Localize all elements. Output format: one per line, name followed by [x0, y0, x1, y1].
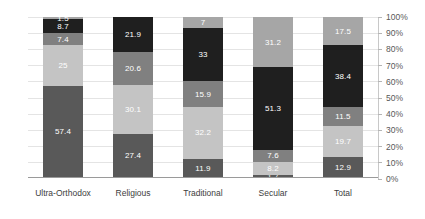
bar-segment-value: 15.9: [195, 90, 211, 99]
y-tick-mark: [378, 130, 382, 131]
stacked-bar: 57.4257.48.71.5: [43, 17, 83, 178]
y-tick-label: 30%: [386, 126, 403, 134]
bar-segment-value: 38.4: [335, 72, 351, 81]
stacked-bar-chart: 57.4257.48.71.527.430.120.621.911.932.21…: [0, 0, 425, 219]
y-tick-label: 40%: [386, 110, 403, 118]
bar-segment[interactable]: 19.7: [323, 126, 363, 158]
y-tick-label: 60%: [386, 78, 403, 86]
bar-segment[interactable]: 7.4: [43, 33, 83, 45]
bar-segment[interactable]: 11.9: [183, 159, 223, 178]
bar-column-total[interactable]: 12.919.711.538.417.5: [310, 17, 377, 178]
y-tick-label: 80%: [386, 45, 403, 53]
bar-segment-value: 7: [201, 18, 206, 27]
bar-segment-value: 12.9: [335, 163, 351, 172]
bar-segment-value: 1.5: [57, 14, 68, 23]
x-axis-label: Religious: [116, 188, 151, 198]
x-axis-label-cell: Traditional: [170, 182, 237, 200]
y-tick-mark: [378, 114, 382, 115]
bar-segment[interactable]: 17.5: [323, 17, 363, 45]
y-tick-label: 90%: [386, 29, 403, 37]
y-tick-mark: [378, 146, 382, 147]
bar-column-traditional[interactable]: 11.932.215.9337: [170, 17, 237, 178]
bar-segment[interactable]: 12.9: [323, 157, 363, 178]
bar-segment[interactable]: 51.3: [253, 67, 293, 150]
y-tick-mark: [378, 17, 382, 18]
bar-segment-value: 11.9: [195, 164, 210, 173]
y-tick-mark: [378, 81, 382, 82]
x-axis: Ultra-OrthodoxReligiousTraditionalSecula…: [28, 182, 378, 200]
bar-segment[interactable]: 32.2: [183, 107, 223, 159]
bar-segment[interactable]: 1.5: [43, 17, 83, 19]
x-axis-label-cell: Secular: [240, 182, 307, 200]
bar-segment-value: 19.7: [335, 137, 351, 146]
y-tick-label: 100%: [386, 13, 408, 21]
y-tick-label: 20%: [386, 143, 403, 151]
y-tick-mark: [378, 98, 382, 99]
bar-segment[interactable]: 30.1: [113, 85, 153, 133]
bar-group: 57.4257.48.71.527.430.120.621.911.932.21…: [28, 17, 378, 178]
plot-area: 57.4257.48.71.527.430.120.621.911.932.21…: [28, 17, 378, 178]
bar-segment[interactable]: 21.9: [113, 17, 153, 52]
axis-baseline: [28, 177, 378, 178]
bar-segment[interactable]: 8.2: [253, 162, 293, 175]
x-axis-label-cell: Ultra-Orthodox: [30, 182, 97, 200]
bar-segment[interactable]: 15.9: [183, 81, 223, 107]
y-tick-mark: [378, 179, 382, 180]
bar-segment[interactable]: 33: [183, 28, 223, 81]
x-axis-label: Total: [334, 188, 352, 198]
bar-segment[interactable]: 7: [183, 17, 223, 28]
bar-segment[interactable]: 38.4: [323, 45, 363, 107]
bar-segment-value: 32.2: [195, 128, 211, 137]
bar-segment[interactable]: 7.6: [253, 150, 293, 162]
bar-segment-value: 31.2: [265, 38, 281, 47]
bar-segment-value: 20.6: [125, 64, 141, 73]
y-tick-mark: [378, 33, 382, 34]
x-axis-label-cell: Religious: [100, 182, 167, 200]
y-tick-label: 10%: [386, 159, 403, 167]
stacked-bar: 11.932.215.9337: [183, 17, 223, 178]
bar-segment[interactable]: 20.6: [113, 52, 153, 85]
y-axis: 0%10%20%30%40%50%60%70%80%90%100%: [378, 17, 425, 179]
bar-column-secular[interactable]: 1.78.27.651.331.2: [240, 17, 307, 178]
stacked-bar: 27.430.120.621.9: [113, 17, 153, 178]
x-axis-label-cell: Total: [310, 182, 377, 200]
bar-column-ultra-orthodox[interactable]: 57.4257.48.71.5: [30, 17, 97, 178]
bar-segment-value: 8.7: [57, 22, 68, 31]
bar-segment-value: 51.3: [265, 104, 281, 113]
stacked-bar: 12.919.711.538.417.5: [323, 17, 363, 178]
bar-segment-value: 17.5: [335, 27, 351, 36]
bar-column-religious[interactable]: 27.430.120.621.9: [100, 17, 167, 178]
y-tick-mark: [378, 162, 382, 163]
bar-segment-value: 57.4: [55, 127, 71, 136]
bar-segment[interactable]: 27.4: [113, 134, 153, 178]
y-tick-label: 50%: [386, 94, 403, 102]
bar-segment-value: 27.4: [125, 151, 141, 160]
bar-segment-value: 7.4: [57, 35, 68, 44]
y-tick-label: 70%: [386, 62, 403, 70]
bar-segment-value: 21.9: [125, 30, 141, 39]
x-axis-label: Ultra-Orthodox: [35, 188, 91, 198]
bar-segment[interactable]: 31.2: [253, 17, 293, 67]
bar-segment-value: 8.2: [267, 164, 278, 173]
y-tick-label: 0%: [386, 175, 398, 183]
bar-segment-value: 7.6: [267, 151, 278, 160]
x-axis-label: Traditional: [183, 188, 222, 198]
y-tick-mark: [378, 49, 382, 50]
bar-segment[interactable]: 11.5: [323, 107, 363, 126]
x-axis-label: Secular: [259, 188, 288, 198]
bar-segment-value: 33: [198, 50, 207, 59]
bar-segment-value: 11.5: [335, 112, 350, 121]
stacked-bar: 1.78.27.651.331.2: [253, 17, 293, 178]
bar-segment[interactable]: 57.4: [43, 86, 83, 178]
bar-segment-value: 30.1: [125, 105, 141, 114]
bar-segment[interactable]: 25: [43, 45, 83, 85]
y-tick-mark: [378, 65, 382, 66]
bar-segment-value: 25: [58, 61, 67, 70]
